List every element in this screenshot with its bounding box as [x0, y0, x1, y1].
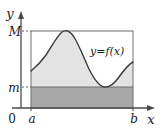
- x-axis-arrowhead: [147, 105, 155, 111]
- curve-label-fx: f(x): [104, 45, 124, 58]
- y-axis-arrowhead: [18, 11, 24, 19]
- right-bound-label: b: [130, 112, 138, 126]
- max-tick-label: M: [8, 25, 22, 39]
- origin-label: 0: [8, 112, 16, 126]
- y-axis-label: y: [5, 6, 14, 21]
- shaded-region-below-m: [31, 87, 133, 108]
- x-axis-label: x: [147, 112, 155, 127]
- curve-label-equals: =: [96, 45, 105, 58]
- function-bounds-figure: y x 0 M m a b y=f(x): [0, 0, 162, 129]
- curve-equation-label: y=f(x): [89, 45, 124, 58]
- left-bound-label: a: [28, 112, 35, 126]
- min-tick-label: m: [8, 81, 19, 95]
